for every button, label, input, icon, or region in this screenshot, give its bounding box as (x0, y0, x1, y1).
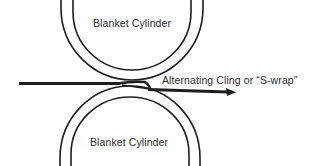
web-annotation-label: Alternating Cling or “S-wrap” (162, 74, 297, 86)
bottom-cylinder-outer-arc (60, 86, 200, 166)
top-cylinder-outer-arc (61, 0, 203, 80)
web-outgoing-line (148, 90, 228, 93)
bottom-cylinder-label: Blanket Cylinder (90, 136, 168, 148)
top-cylinder-label: Blanket Cylinder (93, 17, 171, 29)
bottom-cylinder-inner-arc (71, 97, 189, 166)
top-blanket-cylinder (61, 0, 203, 80)
arrowhead-icon (226, 88, 236, 96)
top-cylinder-inner-arc (73, 0, 191, 70)
bottom-blanket-cylinder (60, 86, 200, 166)
